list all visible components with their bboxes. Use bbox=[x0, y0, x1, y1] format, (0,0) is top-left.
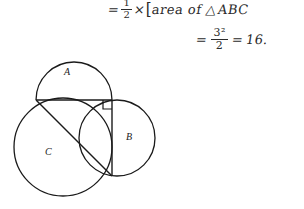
hw2-result: 16. bbox=[245, 32, 270, 47]
hw1-denominator: 2 bbox=[121, 10, 132, 21]
hw2-equals-2: = bbox=[231, 32, 245, 47]
hw1-fraction-one-half: 12 bbox=[121, 0, 132, 20]
circle-c-outline bbox=[14, 98, 112, 196]
hw2-fraction: 3²2 bbox=[211, 27, 227, 51]
hw2-equals: = bbox=[195, 32, 209, 47]
circle-b-outline bbox=[79, 100, 155, 176]
hw2-numerator: 3² bbox=[211, 27, 227, 40]
hw1-equals: = bbox=[107, 2, 121, 17]
region-label-a: A bbox=[64, 66, 70, 77]
hw1-phrase: area of bbox=[151, 2, 203, 17]
triangle-hypotenuse bbox=[36, 100, 112, 176]
handwritten-line-2: =3²2=16. bbox=[196, 28, 268, 52]
region-label-c: C bbox=[45, 146, 52, 157]
semicircle-a-outline bbox=[36, 62, 112, 100]
region-label-b: B bbox=[126, 131, 132, 142]
hw1-triangle-symbol: △ bbox=[205, 2, 218, 17]
screenshot-canvas: A B C =12×[area of△ABC =3²2=16. bbox=[0, 0, 304, 209]
handwritten-line-1: =12×[area of△ABC bbox=[108, 0, 249, 21]
hw2-denominator: 2 bbox=[211, 40, 227, 52]
hw1-triangle-label: ABC bbox=[217, 2, 250, 17]
